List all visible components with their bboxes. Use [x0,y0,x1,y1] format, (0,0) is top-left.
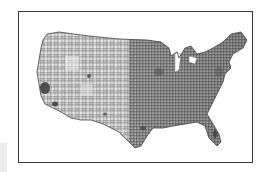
map-frame [18,11,253,163]
side-panel-tab [0,143,7,172]
us-county-map [19,12,252,162]
